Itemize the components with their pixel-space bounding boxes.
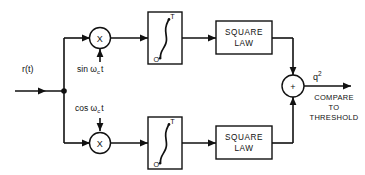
lower-square-law-block[interactable]: SQUARE LAW — [216, 126, 272, 159]
diagram-svg: X T O SQUARE LAW — [0, 0, 365, 175]
lower-squarelaw-in-arrowhead — [208, 140, 216, 147]
upper-integrator-upper-limit: T — [170, 12, 175, 21]
upper-multiplier[interactable]: X — [90, 28, 111, 49]
threshold-note-line3: THRESHOLD — [303, 113, 365, 123]
input-wire — [15, 88, 67, 95]
upper-carrier-label-main: sin ω — [77, 64, 97, 74]
upper-carrier-label: sin ωct — [77, 64, 103, 75]
threshold-note-line2: TO — [303, 103, 365, 113]
upper-carrier-label-tail: t — [101, 64, 103, 74]
lower-integrator-block[interactable]: T O — [148, 117, 182, 169]
lower-integrator-lower-limit: O — [154, 160, 160, 169]
upper-multiplier-symbol: X — [97, 34, 103, 44]
upper-square-law-label-line1: SQUARE — [225, 28, 263, 37]
summing-junction[interactable]: + — [282, 75, 304, 97]
upper-carrier-label-sub: c — [97, 69, 100, 75]
upper-integrator-in-arrowhead — [140, 35, 148, 42]
block-diagram-canvas: X T O SQUARE LAW — [0, 0, 365, 175]
upper-integrator-lower-limit: O — [154, 55, 160, 64]
output-wire — [304, 83, 351, 90]
upper-carrier-arrowhead — [97, 49, 104, 57]
input-signal-label: r(t) — [22, 64, 34, 74]
lower-carrier-arrowhead — [97, 123, 104, 131]
threshold-note: COMPARE TO THRESHOLD — [303, 93, 365, 123]
upper-squarelaw-in-arrowhead — [208, 35, 216, 42]
lower-carrier-label-tail: t — [101, 103, 103, 113]
lower-carrier-label-sub: c — [97, 108, 100, 114]
lower-integrator-upper-limit: T — [170, 117, 175, 126]
output-signal-exponent: 2 — [318, 70, 322, 77]
summer-plus-symbol: + — [290, 82, 296, 92]
lower-carrier-label-main: cos ω — [75, 103, 97, 113]
input-arrowhead — [38, 88, 46, 95]
lower-square-law-label-line2: LAW — [234, 144, 253, 153]
summer-bottom-arrowhead — [290, 97, 297, 105]
upper-square-law-block[interactable]: SQUARE LAW — [216, 21, 272, 54]
output-signal-label: q2 — [313, 70, 322, 82]
upper-square-law-label-line2: LAW — [234, 39, 253, 48]
output-arrowhead — [343, 83, 351, 90]
lower-multiplier-symbol: X — [97, 139, 103, 149]
threshold-note-line1: COMPARE — [303, 93, 365, 103]
lower-multiplier[interactable]: X — [90, 133, 111, 154]
lower-square-law-label-line1: SQUARE — [225, 133, 263, 142]
lower-integrator-in-arrowhead — [140, 140, 148, 147]
lower-carrier-label: cos ωct — [75, 103, 104, 114]
summer-top-arrowhead — [290, 67, 297, 75]
upper-integrator-block[interactable]: T O — [148, 12, 182, 64]
